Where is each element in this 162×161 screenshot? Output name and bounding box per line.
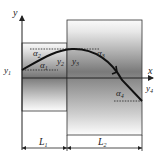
left-section-box [22, 43, 67, 111]
y-axis-label: y [12, 7, 18, 18]
trajectory-diagram: y x y1 y2 y3 y4 α1 α2 α3 α4 L1 L2 [0, 0, 162, 161]
dimension-label-L2: L2 [97, 136, 107, 148]
x-axis-label: x [147, 65, 153, 76]
dimension-label-L1: L1 [38, 136, 48, 148]
label-y4: y4 [145, 83, 153, 94]
label-y1: y1 [3, 65, 11, 76]
